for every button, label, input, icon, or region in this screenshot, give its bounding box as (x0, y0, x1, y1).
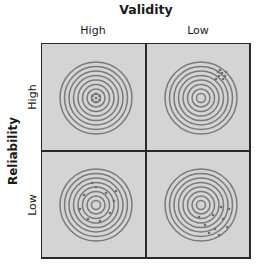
hit-mark (98, 95, 101, 98)
target-ring (60, 169, 132, 241)
hit-mark (225, 71, 228, 74)
hit-mark (221, 72, 224, 75)
hit-mark (204, 224, 207, 227)
validity-axis-title: Validity (41, 2, 251, 17)
row-label-low: Low (26, 194, 39, 216)
hit-mark (83, 194, 86, 197)
hit-mark (222, 218, 225, 221)
target-ring (192, 196, 210, 214)
target-high-validity-low-reliability (56, 165, 136, 245)
target-ring (179, 183, 224, 228)
target-ring (179, 76, 224, 121)
hit-mark (208, 232, 211, 235)
hit-mark (212, 214, 215, 217)
column-label-low: Low (146, 24, 250, 37)
hit-mark (222, 78, 225, 81)
row-label-high: High (26, 84, 39, 109)
target-ring (197, 94, 206, 103)
hit-mark (95, 97, 98, 100)
hit-mark (228, 208, 231, 211)
hit-mark (113, 200, 116, 203)
target-ring (87, 196, 105, 214)
hit-mark (218, 75, 221, 78)
hit-mark (95, 101, 98, 104)
hit-mark (115, 190, 118, 193)
hit-mark (105, 192, 108, 195)
hit-mark (220, 206, 223, 209)
target-high-validity-high-reliability (56, 58, 136, 138)
hit-mark (91, 182, 94, 185)
target-low-validity-high-reliability (161, 58, 241, 138)
target-ring (183, 187, 219, 223)
hit-mark (198, 216, 201, 219)
target-ring (78, 187, 114, 223)
hit-mark (224, 75, 227, 78)
hit-mark (79, 208, 82, 211)
target-ring (174, 178, 228, 232)
horizontal-divider (42, 150, 249, 152)
hit-mark (87, 218, 90, 221)
column-label-high: High (41, 24, 145, 37)
target-ring (192, 89, 210, 107)
hit-mark (95, 186, 98, 189)
hit-mark (109, 212, 112, 215)
hit-mark (99, 220, 102, 223)
quadrant-grid (41, 43, 251, 259)
target-low-validity-low-reliability (161, 165, 241, 245)
target-ring (197, 201, 206, 210)
hit-mark (91, 99, 94, 102)
reliability-axis-title: Reliability (6, 117, 20, 185)
target-ring (74, 183, 119, 228)
hit-mark (98, 99, 101, 102)
hit-mark (219, 69, 222, 72)
hit-mark (226, 226, 229, 229)
hit-mark (214, 228, 217, 231)
target-ring (165, 169, 237, 241)
hit-mark (218, 234, 221, 237)
target-ring (92, 201, 101, 210)
hit-mark (215, 78, 218, 81)
target-ring (174, 71, 228, 125)
hit-mark (95, 93, 98, 96)
target-ring (183, 80, 219, 116)
hit-mark (91, 95, 94, 98)
hit-mark (217, 71, 220, 74)
